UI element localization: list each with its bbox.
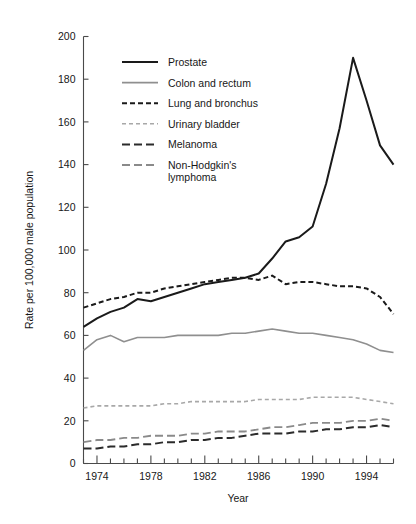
legend-label: Lung and bronchus: [168, 97, 258, 109]
y-tick-label: 40: [64, 372, 76, 384]
legend-label-continued: lymphoma: [168, 171, 217, 183]
legend-label: Colon and rectum: [168, 77, 251, 89]
x-axis-title: Year: [227, 492, 249, 504]
x-tick-label: 1990: [301, 470, 325, 482]
y-tick-label: 60: [64, 329, 76, 341]
y-tick-label: 0: [70, 457, 76, 469]
y-tick-label: 80: [64, 287, 76, 299]
x-tick-label: 1986: [247, 470, 271, 482]
chart-svg: Rate per 100,000 male population Year 02…: [0, 0, 416, 524]
x-tick-label: 1978: [139, 470, 163, 482]
legend-label: Prostate: [168, 56, 207, 68]
y-tick-label: 140: [58, 158, 76, 170]
cancer-incidence-line-chart: Rate per 100,000 male population Year 02…: [0, 0, 416, 524]
x-tick-label: 1974: [85, 470, 109, 482]
x-tick-label: 1994: [355, 470, 379, 482]
y-tick-label: 200: [58, 30, 76, 42]
y-tick-label: 100: [58, 244, 76, 256]
legend-label: Non-Hodgkin's: [168, 159, 237, 171]
y-tick-label: 160: [58, 116, 76, 128]
y-tick-label: 180: [58, 73, 76, 85]
y-axis-title: Rate per 100,000 male population: [23, 171, 35, 329]
legend-label: Melanoma: [168, 138, 217, 150]
legend-label: Urinary bladder: [168, 118, 240, 130]
y-tick-label: 20: [64, 415, 76, 427]
y-tick-label: 120: [58, 201, 76, 213]
x-tick-label: 1982: [193, 470, 217, 482]
